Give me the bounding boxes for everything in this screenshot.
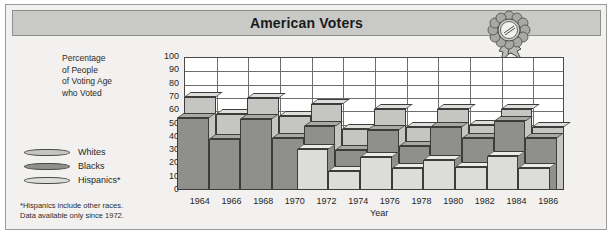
y-tick-label: 90: [153, 64, 179, 74]
bar-hispanics-1984: [487, 156, 519, 190]
x-tick-label: 1982: [467, 196, 503, 206]
y-tick-label: 100: [153, 51, 179, 61]
legend-label-whites: Whites: [78, 147, 106, 157]
x-tick-label: 1978: [404, 196, 440, 206]
x-tick-label: 1976: [372, 196, 408, 206]
x-tick-label: 1974: [340, 196, 376, 206]
bar-blacks-1964: [177, 118, 209, 190]
screenshot-root: American Voters: [0, 0, 614, 235]
caption-line-1: Percentage: [62, 53, 158, 65]
legend-item-whites: Whites: [24, 145, 121, 159]
bar-hispanics-1972: [297, 149, 329, 190]
x-tick-label: 1980: [435, 196, 471, 206]
bar-series-group: [184, 57, 564, 190]
y-tick-label: 40: [153, 131, 179, 141]
legend-item-blacks: Blacks: [24, 159, 121, 173]
bar-hispanics-1980: [423, 160, 455, 190]
y-tick-label: 50: [153, 118, 179, 128]
legend-item-hispanics: Hispanics*: [24, 173, 121, 187]
bar-hispanics-1976: [360, 157, 392, 190]
footnote-line-1: *Hispanics include other races.: [20, 201, 190, 211]
x-tick-label: 1966: [214, 196, 250, 206]
x-tick-label: 1970: [277, 196, 313, 206]
caption-line-3: of Voting Age: [62, 76, 158, 88]
x-tick-label: 1984: [499, 196, 535, 206]
legend-swatch-blacks: [24, 163, 70, 170]
page-title: American Voters: [250, 15, 363, 31]
y-tick-label: 0: [153, 184, 179, 194]
bar-blacks-1966: [209, 139, 241, 190]
bar-hispanics-1974: [328, 171, 360, 190]
caption-line-4: who Voted: [62, 88, 158, 100]
x-tick-label: 1986: [530, 196, 566, 206]
bar-hispanics-1986: [518, 168, 550, 190]
y-tick-label: 10: [153, 171, 179, 181]
y-tick-label: 80: [153, 78, 179, 88]
caption-line-2: of People: [62, 65, 158, 77]
footnote-line-2: Data available only since 1972.: [20, 211, 190, 221]
bar-blacks-1968: [240, 119, 272, 190]
chart-card: American Voters: [5, 4, 607, 230]
legend-swatch-whites: [24, 149, 70, 156]
x-axis-title: Year: [370, 208, 388, 218]
chart-footnote: *Hispanics include other races. Data ava…: [20, 201, 190, 221]
y-tick-label: 70: [153, 91, 179, 101]
x-tick-label: 1968: [245, 196, 281, 206]
x-tick-label: 1972: [309, 196, 345, 206]
y-axis-caption: Percentage of People of Voting Age who V…: [62, 53, 158, 99]
bar-hispanics-1982: [455, 167, 487, 190]
legend-label-blacks: Blacks: [78, 161, 105, 171]
legend-swatch-hispanics: [24, 177, 70, 184]
chart-legend: Whites Blacks Hispanics*: [24, 145, 121, 187]
y-tick-label: 20: [153, 157, 179, 167]
bar-hispanics-1978: [392, 168, 424, 190]
legend-label-hispanics: Hispanics*: [78, 175, 121, 185]
y-tick-label: 30: [153, 144, 179, 154]
y-tick-label: 60: [153, 104, 179, 114]
